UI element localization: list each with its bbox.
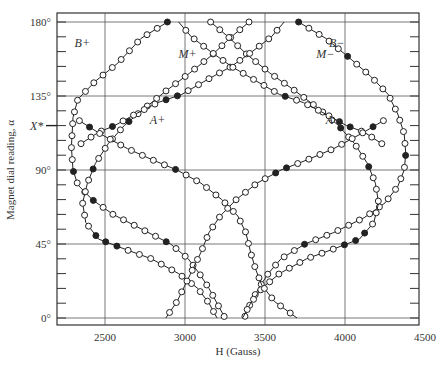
data-point-open xyxy=(82,88,88,94)
data-point-open xyxy=(221,313,227,319)
data-point-open xyxy=(261,285,267,291)
data-point-open xyxy=(373,210,379,216)
data-point-filled xyxy=(302,241,308,247)
data-point-open xyxy=(118,56,124,62)
data-point-open xyxy=(194,178,200,184)
data-point-open xyxy=(201,59,207,65)
data-point-open xyxy=(262,66,268,72)
data-point-open xyxy=(169,267,175,273)
data-point-open xyxy=(306,156,312,162)
x-tick-label: 4000 xyxy=(334,331,357,343)
data-point-open xyxy=(230,208,236,214)
data-point-open xyxy=(297,259,303,265)
data-point-open xyxy=(109,65,115,71)
data-point-open xyxy=(401,164,407,170)
data-point-open xyxy=(100,204,106,210)
data-point-open xyxy=(100,72,106,78)
data-point-open xyxy=(216,214,222,220)
data-point-open xyxy=(144,32,150,38)
data-point-open xyxy=(313,237,319,243)
data-point-open xyxy=(97,130,103,136)
data-point-open xyxy=(142,228,148,234)
data-point-open xyxy=(152,101,158,107)
data-point-open xyxy=(369,134,375,140)
data-point-open xyxy=(219,43,225,49)
data-point-filled xyxy=(296,19,302,25)
data-point-open xyxy=(246,19,252,25)
data-point-filled xyxy=(345,53,351,59)
x-tick-label: 4500 xyxy=(414,331,437,343)
x-star-label: X* xyxy=(29,119,43,133)
data-point-open xyxy=(220,57,226,63)
data-point-open xyxy=(400,129,406,135)
data-point-open xyxy=(294,97,300,103)
data-point-filled xyxy=(347,124,353,130)
data-point-filled xyxy=(126,119,132,125)
data-point-open xyxy=(121,217,127,223)
data-point-open xyxy=(182,253,188,259)
data-point-open xyxy=(237,218,243,224)
data-point-open xyxy=(102,145,108,151)
data-point-filled xyxy=(273,170,279,176)
data-point-filled xyxy=(353,238,359,244)
curve-label: A+ xyxy=(149,113,165,127)
data-point-open xyxy=(398,176,404,182)
y-axis-title: Magnet dial reading, α xyxy=(4,120,16,220)
data-point-open xyxy=(192,66,198,72)
data-point-open xyxy=(370,175,376,181)
data-point-open xyxy=(339,141,345,147)
data-point-open xyxy=(179,289,185,295)
data-point-open xyxy=(118,142,124,148)
data-point-open xyxy=(360,130,366,136)
data-point-open xyxy=(196,82,202,88)
data-point-open xyxy=(262,176,268,182)
data-point-open xyxy=(191,36,197,42)
data-point-open xyxy=(80,200,86,206)
data-point-filled xyxy=(163,239,169,245)
data-point-filled xyxy=(282,93,288,99)
data-point-filled xyxy=(109,123,115,129)
x-tick-label: 3500 xyxy=(254,331,277,343)
data-point-open xyxy=(128,147,134,153)
data-point-open xyxy=(380,118,386,124)
data-point-open xyxy=(253,59,259,65)
data-point-open xyxy=(173,300,179,306)
data-point-open xyxy=(272,73,278,79)
data-point-open xyxy=(204,185,210,191)
data-point-open xyxy=(204,234,210,240)
data-point-open xyxy=(161,162,167,168)
data-point-open xyxy=(267,279,273,285)
data-point-open xyxy=(206,76,212,82)
data-point-filled xyxy=(93,233,99,239)
data-point-open xyxy=(194,256,200,262)
data-point-open xyxy=(356,217,362,223)
data-point-open xyxy=(183,27,189,33)
y-tick-label: 45° xyxy=(36,238,51,250)
data-point-open xyxy=(373,186,379,192)
data-point-filled xyxy=(366,164,372,170)
data-point-open xyxy=(248,252,254,258)
data-point-open xyxy=(136,251,142,257)
x-tick-label: 3000 xyxy=(174,331,197,343)
data-point-open xyxy=(208,19,214,25)
data-point-filled xyxy=(163,97,169,103)
data-point-filled xyxy=(284,165,290,171)
data-point-open xyxy=(315,107,321,113)
data-point-open xyxy=(393,186,399,192)
data-point-open xyxy=(256,43,262,49)
data-point-filled xyxy=(173,166,179,172)
data-point-filled xyxy=(87,124,93,130)
curve-label: A− xyxy=(325,113,341,127)
data-point-open xyxy=(148,256,154,262)
data-point-open xyxy=(78,141,84,147)
data-point-open xyxy=(397,117,403,123)
data-point-open xyxy=(265,271,271,277)
data-point-open xyxy=(135,39,141,45)
data-point-open xyxy=(392,106,398,112)
data-point-open xyxy=(88,134,94,140)
data-point-open xyxy=(237,27,243,33)
data-point-open xyxy=(82,212,88,218)
x-tick-label: 2500 xyxy=(94,331,117,343)
data-point-open xyxy=(235,43,241,49)
data-point-open xyxy=(276,271,282,277)
